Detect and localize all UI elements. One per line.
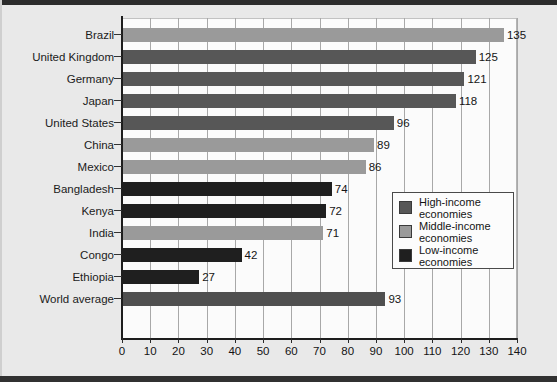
category-label: India <box>89 222 114 244</box>
y-axis-tick <box>114 56 122 57</box>
x-axis-tick-mark <box>263 338 264 343</box>
bar <box>123 72 464 86</box>
bar <box>123 248 242 262</box>
category-label: Japan <box>83 90 114 112</box>
y-axis-tick <box>114 232 122 233</box>
bar-value-label: 74 <box>332 181 348 197</box>
bar <box>123 28 504 42</box>
legend-swatch-icon <box>399 201 412 214</box>
bar-value-label: 86 <box>366 159 382 175</box>
bar <box>123 50 476 64</box>
bar-value-label: 125 <box>476 49 498 65</box>
legend-item: Low-income economies <box>399 246 513 269</box>
y-axis-tick <box>114 276 122 277</box>
category-label: Congo <box>80 244 114 266</box>
bar-value-label: 42 <box>242 247 258 263</box>
bar-value-label: 72 <box>326 203 342 219</box>
chart-page: Brazil135United Kingdom125Germany121Japa… <box>0 0 557 382</box>
bar-row: Brazil135 <box>0 24 557 46</box>
category-label: Germany <box>67 68 114 90</box>
bar-row: Mexico86 <box>0 156 557 178</box>
x-axis-tick-mark <box>376 338 377 343</box>
bar-value-label: 96 <box>394 115 410 131</box>
y-axis-tick <box>114 298 122 299</box>
bar-value-label: 118 <box>456 93 477 109</box>
legend-label: High-income economies <box>419 197 481 220</box>
page-top-border <box>0 0 557 5</box>
y-axis-tick <box>114 122 122 123</box>
x-axis-tick-mark <box>235 338 236 343</box>
bar-value-label: 71 <box>323 225 339 241</box>
legend-item: Middle-income economies <box>399 222 513 245</box>
bar-value-label: 27 <box>199 269 215 285</box>
x-axis-tick-mark <box>517 338 518 343</box>
category-label: Kenya <box>81 200 114 222</box>
x-axis-tick-mark <box>348 338 349 343</box>
bar-value-label: 135 <box>504 27 526 43</box>
y-axis-tick <box>114 34 122 35</box>
x-axis-tick-mark <box>432 338 433 343</box>
bar <box>123 116 394 130</box>
category-label: Brazil <box>85 24 114 46</box>
y-axis-tick <box>114 254 122 255</box>
legend-swatch-icon <box>399 225 412 238</box>
bar-row: World average93 <box>0 288 557 310</box>
legend-label: Low-income economies <box>419 245 478 268</box>
category-label: Bangladesh <box>53 178 114 200</box>
x-axis-tick-mark <box>489 338 490 343</box>
bar <box>123 138 374 152</box>
y-axis-tick <box>114 166 122 167</box>
y-axis-tick <box>114 210 122 211</box>
bar-row: Germany121 <box>0 68 557 90</box>
x-axis-tick-mark <box>461 338 462 343</box>
bar-row: Ethiopia27 <box>0 266 557 288</box>
y-axis-tick <box>114 188 122 189</box>
x-axis-tick-mark <box>178 338 179 343</box>
bar <box>123 94 456 108</box>
bar <box>123 270 199 284</box>
x-axis-tick-mark <box>291 338 292 343</box>
bar-value-label: 121 <box>464 71 486 87</box>
category-label: China <box>84 134 114 156</box>
x-axis-tick-mark <box>207 338 208 343</box>
legend-item: High-income economies <box>399 198 513 221</box>
y-axis-tick <box>114 144 122 145</box>
legend-label: Middle-income economies <box>419 221 491 244</box>
bar-value-label: 89 <box>374 137 390 153</box>
bar <box>123 226 323 240</box>
category-label: United States <box>45 112 114 134</box>
bar <box>123 160 366 174</box>
page-bottom-border <box>0 376 557 382</box>
bar-row: Japan118 <box>0 90 557 112</box>
category-label: Mexico <box>78 156 114 178</box>
x-axis-tick-mark <box>122 338 123 343</box>
bar-row: United Kingdom125 <box>0 46 557 68</box>
category-label: Ethiopia <box>72 266 114 288</box>
x-axis-tick-mark <box>404 338 405 343</box>
bar <box>123 204 326 218</box>
y-axis-tick <box>114 100 122 101</box>
x-axis-tick-label: 140 <box>500 345 534 357</box>
bar-value-label: 93 <box>385 291 401 307</box>
bar-row: United States96 <box>0 112 557 134</box>
x-axis-tick-mark <box>320 338 321 343</box>
x-axis-tick-mark <box>150 338 151 343</box>
bar <box>123 182 332 196</box>
chart-legend: High-income economiesMiddle-income econo… <box>392 192 514 269</box>
category-label: World average <box>39 288 114 310</box>
y-axis-tick <box>114 78 122 79</box>
legend-swatch-icon <box>399 249 412 262</box>
bar-row: China89 <box>0 134 557 156</box>
bar <box>123 292 385 306</box>
category-label: United Kingdom <box>32 46 114 68</box>
